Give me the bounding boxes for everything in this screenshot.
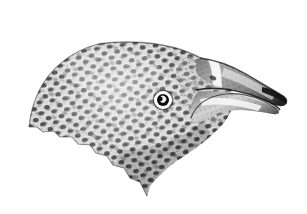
bird-head-illustration <box>0 0 307 214</box>
forehead-highlight <box>64 48 160 92</box>
eye <box>153 90 174 111</box>
illustration-canvas: Black and white stipple engraving of a b… <box>0 0 307 214</box>
